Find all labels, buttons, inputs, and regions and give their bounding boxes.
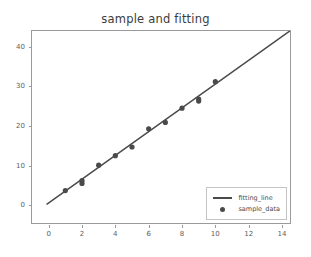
y-tick-label: 20 xyxy=(16,122,25,130)
x-tick-label: 4 xyxy=(113,230,117,238)
y-tick-label: 0 xyxy=(21,201,25,209)
x-tick-label: 8 xyxy=(180,230,184,238)
y-tick-mark xyxy=(29,47,32,48)
plot-area: 02468101214 010203040 fitting_line sampl… xyxy=(31,30,291,224)
x-tick-mark xyxy=(282,225,283,228)
x-tick-label: 10 xyxy=(211,230,220,238)
data-point xyxy=(146,126,151,131)
x-tick-mark xyxy=(249,225,250,228)
y-tick-mark xyxy=(29,205,32,206)
y-tick-mark xyxy=(29,166,32,167)
x-tick-label: 14 xyxy=(278,230,287,238)
data-point xyxy=(113,153,118,158)
x-tick-mark xyxy=(49,225,50,228)
x-tick-label: 12 xyxy=(244,230,253,238)
legend-label-sample-data: sample_data xyxy=(238,205,280,213)
y-tick-label: 40 xyxy=(16,43,25,51)
data-point xyxy=(96,163,101,168)
y-tick-label: 10 xyxy=(16,162,25,170)
x-tick-mark xyxy=(149,225,150,228)
x-tick-mark xyxy=(82,225,83,228)
data-point xyxy=(179,106,184,111)
y-tick-mark xyxy=(29,86,32,87)
data-point xyxy=(196,96,201,101)
x-tick-mark xyxy=(215,225,216,228)
data-point xyxy=(163,120,168,125)
legend-item-sample-data[interactable]: sample_data xyxy=(212,204,280,214)
data-point xyxy=(213,79,218,84)
chart-title: sample and fitting xyxy=(0,12,311,26)
data-point xyxy=(79,178,84,183)
fitting-line-series xyxy=(47,31,290,204)
figure-canvas: sample and fitting 02468101214 010203040… xyxy=(0,0,311,257)
x-tick-label: 0 xyxy=(46,230,50,238)
legend-label-fitting-line: fitting_line xyxy=(238,194,272,202)
legend-box[interactable]: fitting_line sample_data xyxy=(206,187,287,220)
x-tick-label: 2 xyxy=(80,230,84,238)
line-swatch-icon xyxy=(212,197,232,199)
y-tick-mark xyxy=(29,126,32,127)
x-tick-label: 6 xyxy=(146,230,150,238)
data-point xyxy=(63,188,68,193)
data-point xyxy=(129,144,134,149)
x-tick-mark xyxy=(115,225,116,228)
legend-item-fitting-line[interactable]: fitting_line xyxy=(212,193,280,203)
y-tick-label: 30 xyxy=(16,82,25,90)
dot-marker-icon xyxy=(212,207,232,212)
x-tick-mark xyxy=(182,225,183,228)
